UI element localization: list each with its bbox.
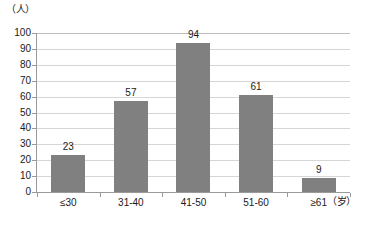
x-axis-tick-mark — [350, 193, 351, 197]
y-axis-tick-label: 10 — [1, 171, 31, 181]
x-axis-tick-labels: ≤3031-4041-5051-60≥61 — [37, 197, 350, 213]
y-axis-tick-mark — [32, 160, 36, 161]
y-axis-tick-mark — [32, 144, 36, 145]
x-axis-tick-mark — [100, 193, 101, 197]
bar-slot: 61 — [225, 33, 288, 192]
y-axis-tick-label: 80 — [1, 60, 31, 70]
bar-value-label: 9 — [316, 164, 322, 175]
bar-slot: 57 — [100, 33, 163, 192]
x-axis-tick-label: 41-50 — [162, 197, 225, 209]
y-axis-tick-label: 40 — [1, 123, 31, 133]
y-axis-tick-label: 70 — [1, 76, 31, 86]
bar-value-label: 94 — [188, 29, 199, 40]
y-axis-tick-mark — [32, 33, 36, 34]
y-axis-tick-label: 0 — [1, 187, 31, 197]
bar-chart: （人） 0102030405060708090100 235794619 ≤30… — [0, 0, 365, 234]
x-axis-tick-label: 51-60 — [225, 197, 288, 209]
x-axis-tick-mark — [225, 193, 226, 197]
x-axis-tick-label: 31-40 — [100, 197, 163, 209]
y-axis-tick-mark — [32, 97, 36, 98]
plot-area: 235794619 — [37, 33, 350, 192]
y-axis-tick-labels: 0102030405060708090100 — [0, 0, 31, 234]
x-axis-line — [37, 192, 350, 193]
bar-value-label: 57 — [125, 87, 136, 98]
x-axis-tick-mark — [287, 193, 288, 197]
y-axis-tick-label: 30 — [1, 139, 31, 149]
bar[interactable] — [51, 155, 85, 192]
y-axis-tick-label: 90 — [1, 44, 31, 54]
y-axis-tick-label: 20 — [1, 155, 31, 165]
x-axis-tick-mark — [162, 193, 163, 197]
y-axis-tick-mark — [32, 192, 36, 193]
y-axis-tick-label: 50 — [1, 108, 31, 118]
x-axis-unit-label: （岁） — [327, 196, 356, 208]
y-axis-tick-mark — [32, 113, 36, 114]
y-axis-tick-mark — [32, 128, 36, 129]
y-axis-tick-label: 100 — [1, 28, 31, 38]
bar[interactable] — [114, 101, 148, 192]
bar[interactable] — [176, 43, 210, 192]
y-axis-tick-mark — [32, 49, 36, 50]
x-axis-tick-label: ≤30 — [37, 197, 100, 209]
bar-slot: 9 — [287, 33, 350, 192]
bar-value-label: 61 — [251, 81, 262, 92]
bar-slot: 23 — [37, 33, 100, 192]
y-axis-tick-mark — [32, 81, 36, 82]
y-axis-tick-mark — [32, 176, 36, 177]
bar[interactable] — [239, 95, 273, 192]
x-axis-tick-mark — [37, 193, 38, 197]
bar-slot: 94 — [162, 33, 225, 192]
bar[interactable] — [302, 178, 336, 192]
bar-value-label: 23 — [63, 141, 74, 152]
y-axis-tick-label: 60 — [1, 92, 31, 102]
y-axis-tick-mark — [32, 65, 36, 66]
